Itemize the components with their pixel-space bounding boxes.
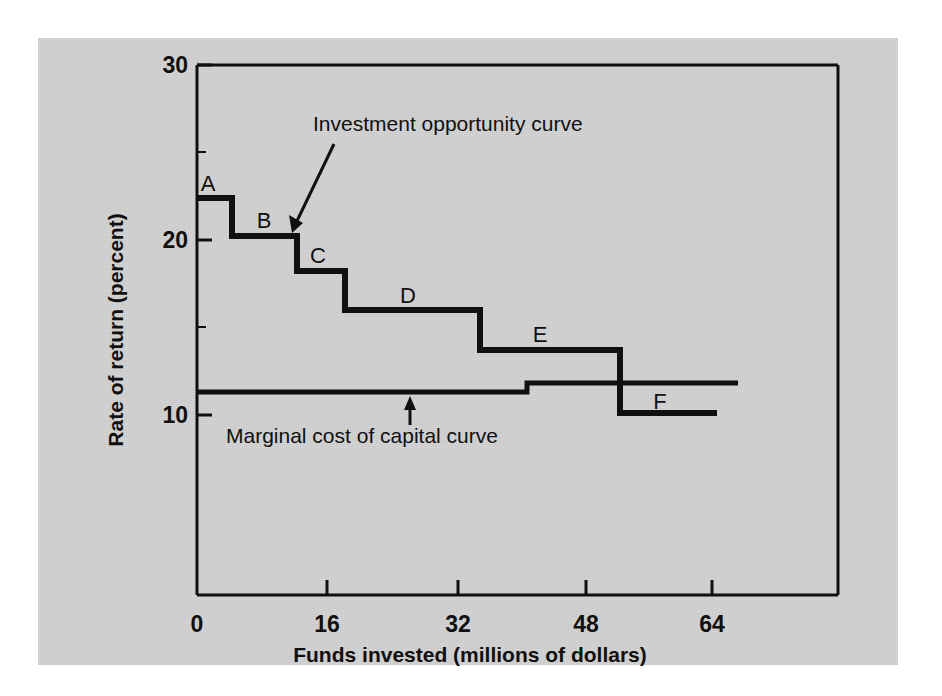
x-axis-tick-labels: 0 16 32 48 64 — [191, 611, 725, 637]
x-axis-ticks — [327, 580, 712, 595]
investment-opportunity-arrow-head — [289, 215, 303, 233]
step-label-a: A — [201, 171, 216, 196]
x-axis-title: Funds invested (millions of dollars) — [293, 643, 647, 666]
step-label-c: C — [310, 243, 326, 268]
y-tick-label-30: 30 — [162, 52, 188, 78]
economics-step-chart: 30 20 10 0 16 32 48 64 Funds invested (m… — [0, 0, 942, 696]
x-tick-label-64: 64 — [699, 611, 725, 637]
x-tick-label-32: 32 — [445, 611, 471, 637]
step-label-e: E — [533, 322, 548, 347]
y-axis-ticks — [197, 65, 212, 415]
marginal-cost-arrow-head — [404, 396, 416, 410]
x-tick-label-16: 16 — [314, 611, 340, 637]
investment-opportunity-annotation: Investment opportunity curve — [289, 112, 583, 233]
y-tick-label-10: 10 — [162, 402, 188, 428]
step-label-f: F — [653, 389, 666, 414]
x-tick-label-48: 48 — [573, 611, 599, 637]
marginal-cost-annotation: Marginal cost of capital curve — [226, 396, 498, 447]
investment-opportunity-annotation-label: Investment opportunity curve — [313, 112, 583, 135]
figure-page: 30 20 10 0 16 32 48 64 Funds invested (m… — [0, 0, 942, 696]
marginal-cost-annotation-label: Marginal cost of capital curve — [226, 424, 498, 447]
step-labels: A B C D E F — [201, 171, 667, 414]
step-label-d: D — [400, 283, 416, 308]
x-tick-label-0: 0 — [191, 611, 204, 637]
investment-opportunity-arrow-shaft — [296, 144, 334, 223]
step-label-b: B — [257, 208, 272, 233]
plot-frame — [197, 65, 838, 595]
y-tick-label-20: 20 — [162, 227, 188, 253]
y-axis-tick-labels: 30 20 10 — [162, 52, 188, 428]
y-axis-title: Rate of return (percent) — [104, 213, 127, 446]
